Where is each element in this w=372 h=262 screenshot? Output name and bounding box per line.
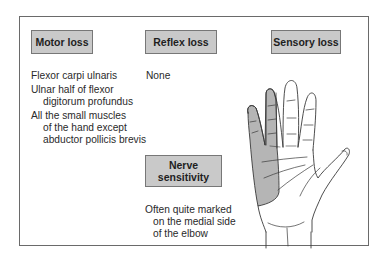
hand-illustration (0, 0, 372, 262)
ulnar-sensory-area (248, 89, 279, 206)
